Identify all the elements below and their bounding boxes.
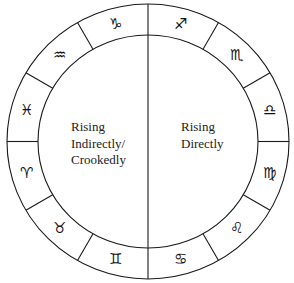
segment-divider (78, 22, 94, 49)
segment-divider (78, 234, 94, 261)
gemini-icon: ♊︎ (109, 250, 122, 268)
label-rising-indirectly: Rising Indirectly/ Crookedly (71, 119, 126, 169)
segment-divider (243, 195, 270, 211)
segment-divider (243, 73, 270, 89)
label-right-line2: Directly (181, 136, 224, 153)
segment-divider (203, 22, 219, 49)
label-right-line1: Rising (181, 119, 224, 136)
segment-divider (26, 195, 53, 211)
capricorn-icon: ♑︎ (109, 15, 122, 33)
segment-divider (26, 73, 53, 89)
aquarius-icon: ♒︎ (53, 46, 66, 64)
taurus-icon: ♉︎ (53, 219, 66, 237)
sagittarius-icon: ♐︎ (174, 15, 187, 33)
cancer-icon: ♋︎ (174, 250, 187, 268)
scorpio-icon: ♏︎ (230, 46, 243, 64)
label-left-line2: Indirectly/ (71, 136, 126, 153)
aries-icon: ♈︎ (20, 164, 33, 182)
label-left-line1: Rising (71, 119, 126, 136)
label-left-line3: Crookedly (71, 152, 126, 169)
segment-divider (203, 234, 219, 261)
leo-icon: ♌︎ (230, 219, 243, 237)
pisces-icon: ♓︎ (20, 101, 33, 119)
label-rising-directly: Rising Directly (181, 119, 224, 152)
virgo-icon: ♍︎ (263, 164, 276, 182)
libra-icon: ♎︎ (263, 101, 276, 119)
zodiac-wheel: ♑︎♐︎♏︎♎︎♍︎♌︎♋︎♊︎♉︎♈︎♓︎♒︎ (0, 0, 294, 283)
